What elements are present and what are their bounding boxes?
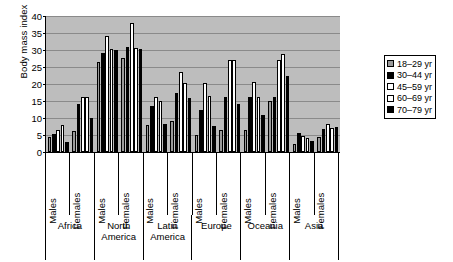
bar: [277, 60, 281, 152]
legend-label: 18–29 yr: [397, 59, 432, 69]
legend-label: 60–69 yr: [397, 93, 432, 103]
bar: [183, 83, 187, 152]
bar-group: [95, 16, 120, 152]
bar-group: [120, 16, 145, 152]
plot-area: 0510152025303540: [45, 16, 340, 153]
sex-label-cell: Females: [70, 153, 94, 215]
bar: [114, 50, 118, 152]
legend-swatch: [387, 72, 394, 79]
sex-label-cell: Females: [119, 153, 143, 215]
sex-label-cell: Females: [217, 153, 241, 215]
sex-label-cell: Males: [144, 153, 168, 215]
region-label: North America: [95, 215, 144, 260]
bar: [330, 128, 334, 152]
bar: [85, 97, 89, 152]
bar-group: [218, 16, 243, 152]
y-tick-label: 25: [31, 62, 42, 73]
bar: [281, 54, 285, 152]
bar: [97, 62, 101, 152]
bar: [317, 137, 321, 152]
bar: [261, 115, 265, 152]
bar: [159, 101, 163, 152]
bar-group: [193, 16, 218, 152]
bar: [244, 130, 248, 152]
bar-groups: [46, 16, 340, 152]
region-label: Africa: [46, 215, 95, 260]
bar-group: [144, 16, 169, 152]
bar-group: [316, 16, 341, 152]
bar: [61, 125, 65, 152]
sex-axis-labels: MalesFemalesMalesFemalesMalesFemalesMale…: [45, 153, 339, 215]
bar: [203, 83, 207, 152]
bar: [170, 121, 174, 152]
bar-group: [291, 16, 316, 152]
bar: [195, 135, 199, 152]
bar: [110, 49, 114, 152]
bar: [310, 141, 314, 152]
bar: [90, 118, 94, 152]
bar: [150, 106, 154, 152]
sex-label-cell: Females: [168, 153, 192, 215]
legend-swatch: [387, 83, 394, 90]
bar: [105, 36, 109, 152]
bar: [126, 47, 130, 152]
bar: [146, 125, 150, 152]
region-label: Europe: [192, 215, 241, 260]
region-axis-labels: AfricaNorth AmericaLatin AmericaEuropeOc…: [45, 215, 339, 260]
bar: [175, 93, 179, 152]
y-axis-title: Body mass index: [18, 0, 29, 112]
bar: [286, 76, 290, 153]
legend-item: 70–79 yr: [387, 104, 432, 116]
bar: [273, 97, 277, 152]
y-tick-label: 30: [31, 45, 42, 56]
bar: [81, 97, 85, 152]
bar: [65, 142, 69, 152]
bar-group: [46, 16, 71, 152]
sex-label-cell: Males: [193, 153, 217, 215]
y-tick-label: 15: [31, 96, 42, 107]
bar-group: [242, 16, 267, 152]
legend-item: 45–59 yr: [387, 81, 432, 93]
bar: [293, 144, 297, 152]
bar: [232, 60, 236, 152]
bar: [77, 104, 81, 152]
bar: [208, 96, 212, 152]
y-tick-label: 0: [37, 147, 42, 158]
bar: [48, 137, 52, 152]
bar: [154, 97, 158, 152]
legend-swatch: [387, 106, 394, 113]
region-label: Asia: [290, 215, 339, 260]
legend-swatch: [387, 95, 394, 102]
y-tick-label: 20: [31, 79, 42, 90]
region-label: Oceania: [241, 215, 290, 260]
bar: [297, 133, 301, 152]
y-tick-label: 10: [31, 113, 42, 124]
bar: [130, 23, 134, 152]
legend-item: 60–69 yr: [387, 93, 432, 105]
bar: [257, 97, 261, 152]
legend: 18–29 yr30–44 yr45–59 yr60–69 yr70–79 yr: [384, 55, 436, 119]
sex-label-cell: Males: [46, 153, 70, 215]
bar: [252, 82, 256, 152]
bar-group: [169, 16, 194, 152]
y-tick-label: 40: [31, 11, 42, 22]
legend-label: 30–44 yr: [397, 70, 432, 80]
legend-item: 18–29 yr: [387, 58, 432, 70]
region-label: Latin America: [144, 215, 193, 260]
y-tick-label: 5: [37, 130, 42, 141]
bar-group: [267, 16, 292, 152]
bar: [228, 60, 232, 152]
legend-item: 30–44 yr: [387, 70, 432, 82]
sex-label-cell: Males: [241, 153, 265, 215]
y-tick-label: 35: [31, 28, 42, 39]
bar: [335, 127, 339, 152]
bar: [163, 124, 167, 152]
legend-label: 70–79 yr: [397, 105, 432, 115]
bar: [248, 97, 252, 152]
bar: [188, 98, 192, 152]
sex-label-cell: Females: [266, 153, 290, 215]
bar: [219, 130, 223, 152]
bar: [52, 134, 56, 152]
bar: [326, 124, 330, 152]
bar: [224, 97, 228, 152]
